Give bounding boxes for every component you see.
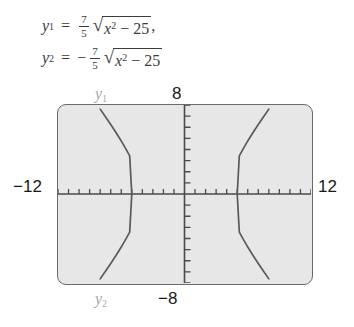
equation-y2-radicand-exponent: 2 bbox=[122, 52, 127, 63]
curve-label-y2-subscript: 2 bbox=[102, 298, 107, 309]
curve-y2-left-branch bbox=[100, 194, 132, 279]
graph-plot-area bbox=[57, 104, 313, 285]
axis-label-xmax: 12 bbox=[318, 177, 337, 197]
equation-y2-radicand-operator: − bbox=[131, 52, 140, 69]
equation-y2-numerator: 7 bbox=[90, 46, 100, 58]
equation-y2-variable: y bbox=[42, 49, 49, 67]
equation-y1-subscript: 1 bbox=[49, 21, 54, 32]
curve-y1-left-branch bbox=[100, 109, 132, 194]
equation-y2-radical: √ x2 − 25 bbox=[104, 48, 163, 68]
equation-y1-trailing-comma: , bbox=[151, 17, 155, 35]
equation-y1-radicand: x2 − 25 bbox=[102, 16, 151, 36]
equation-y1-denominator: 5 bbox=[79, 26, 89, 39]
graph-svg bbox=[58, 105, 311, 283]
equation-y1-radicand-operator: − bbox=[120, 20, 129, 37]
equation-y1-fraction: 7 5 bbox=[79, 14, 89, 39]
equation-y1-variable: y bbox=[42, 17, 49, 35]
equation-y1: y1 = 7 5 √ x2 − 25 , bbox=[42, 10, 342, 42]
equation-y2-leading-sign: − bbox=[77, 49, 86, 67]
equation-y2-radicand-constant: 25 bbox=[144, 52, 160, 69]
axis-label-ymin: −8 bbox=[158, 289, 177, 309]
equation-y2-equals: = bbox=[61, 49, 70, 67]
curve-label-y1-subscript: 1 bbox=[102, 93, 107, 104]
curve-label-y2: y2 bbox=[95, 290, 107, 309]
equation-y1-equals: = bbox=[61, 17, 70, 35]
equation-y2-fraction: 7 5 bbox=[90, 46, 100, 71]
equation-y1-radical: √ x2 − 25 bbox=[93, 16, 152, 36]
equation-y2-radicand: x2 − 25 bbox=[113, 48, 162, 68]
axis-label-ymax: 8 bbox=[172, 84, 181, 104]
equation-block: y1 = 7 5 √ x2 − 25 , y2 = − 7 5 √ x2 − 2… bbox=[42, 10, 342, 74]
equation-y1-numerator: 7 bbox=[79, 14, 89, 26]
equation-y2-subscript: 2 bbox=[49, 53, 54, 64]
equation-y2: y2 = − 7 5 √ x2 − 25 bbox=[42, 42, 342, 74]
curve-y2-right-branch bbox=[237, 194, 269, 279]
equation-y1-radicand-constant: 25 bbox=[133, 20, 149, 37]
equation-y2-denominator: 5 bbox=[90, 58, 100, 71]
equation-y1-radicand-exponent: 2 bbox=[111, 20, 116, 31]
graphing-calculator-screen bbox=[57, 104, 313, 285]
curve-y1-right-branch bbox=[237, 109, 269, 194]
axis-label-xmin: −12 bbox=[13, 177, 42, 197]
curve-label-y1: y1 bbox=[95, 85, 107, 104]
